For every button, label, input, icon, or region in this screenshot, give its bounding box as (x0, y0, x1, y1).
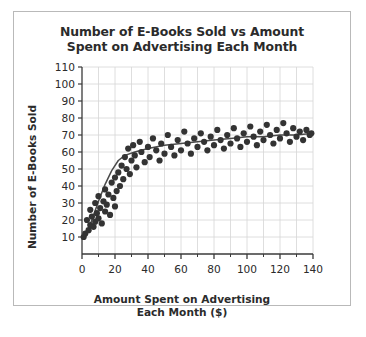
svg-text:40: 40 (62, 180, 76, 192)
svg-text:100: 100 (237, 263, 257, 275)
svg-text:30: 30 (62, 197, 76, 209)
x-axis-title-line-2: Each Month ($) (14, 306, 350, 319)
x-axis-title: Amount Spent on Advertising Each Month (… (14, 293, 350, 319)
svg-text:0: 0 (79, 263, 86, 275)
svg-text:60: 60 (62, 146, 76, 158)
svg-text:70: 70 (62, 129, 76, 141)
gridlines (82, 67, 313, 254)
svg-text:20: 20 (108, 263, 122, 275)
svg-text:120: 120 (270, 263, 290, 275)
svg-text:80: 80 (207, 263, 221, 275)
y-axis-title: Number of E-Books Sold (26, 105, 38, 249)
axis-ticks (78, 67, 313, 259)
svg-text:50: 50 (62, 163, 76, 175)
scatter-plot: 1020304050607080901001100204060801001201… (14, 12, 352, 307)
svg-text:10: 10 (62, 231, 76, 243)
svg-text:60: 60 (174, 263, 188, 275)
svg-text:90: 90 (62, 95, 76, 107)
svg-text:140: 140 (303, 263, 323, 275)
svg-text:80: 80 (62, 112, 76, 124)
x-axis-title-line-1: Amount Spent on Advertising (14, 293, 350, 306)
svg-text:40: 40 (141, 263, 155, 275)
svg-text:20: 20 (62, 214, 76, 226)
figure-frame: Number of E-Books Sold vs Amount Spent o… (13, 11, 351, 306)
svg-text:110: 110 (55, 61, 75, 73)
axis-tick-labels: 1020304050607080901001100204060801001201… (55, 61, 324, 275)
svg-text:100: 100 (55, 78, 75, 90)
